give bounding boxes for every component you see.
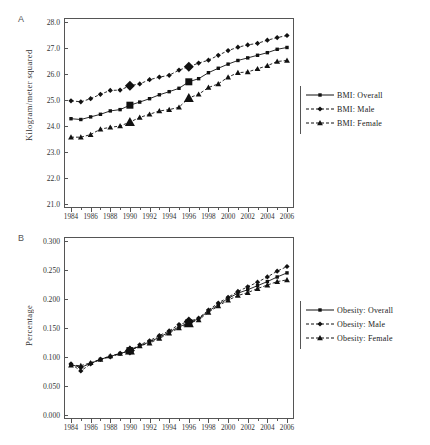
legend-sample-square-icon <box>305 89 335 101</box>
y-tick-label: 24.0 <box>28 122 60 131</box>
y-tick-mark <box>64 241 68 242</box>
x-tick-label: 2000 <box>221 424 235 432</box>
x-tick-mark <box>238 419 239 421</box>
y-tick-label: 0.100 <box>28 353 60 362</box>
x-tick-mark <box>277 419 278 421</box>
x-tick-label: 1994 <box>162 213 176 221</box>
panel-a-legend-divider <box>300 86 301 134</box>
x-tick-mark <box>199 208 200 210</box>
y-tick-mark <box>64 100 68 101</box>
y-tick-mark <box>64 270 68 271</box>
x-tick-label: 2000 <box>221 213 235 221</box>
legend-label: BMI: Male <box>337 105 375 114</box>
x-tick-mark <box>248 208 249 212</box>
y-tick-label: 28.0 <box>28 18 60 27</box>
y-tick-label: 21.0 <box>28 200 60 209</box>
y-tick-label: 26.0 <box>28 70 60 79</box>
x-tick-mark <box>150 208 151 212</box>
panel-a: A Kilogram/meter squared 28.027.026.025.… <box>0 0 430 225</box>
y-tick-label: 0.250 <box>28 266 60 275</box>
y-tick-label: 0.000 <box>28 411 60 420</box>
y-tick-mark <box>64 357 68 358</box>
legend-item: Obesity: Male <box>305 317 393 331</box>
x-tick-mark <box>150 419 151 423</box>
x-tick-label: 1996 <box>182 424 196 432</box>
y-tick-label: 25.0 <box>28 96 60 105</box>
x-tick-mark <box>238 208 239 210</box>
panel-b-series-layer <box>64 237 294 419</box>
legend-sample-diamond-icon <box>305 318 335 330</box>
x-tick-mark <box>258 208 259 210</box>
x-tick-label: 2004 <box>260 213 274 221</box>
legend-label: Obesity: Overall <box>337 306 393 315</box>
x-tick-mark <box>120 419 121 421</box>
x-tick-mark <box>258 419 259 421</box>
x-tick-label: 1994 <box>162 424 176 432</box>
legend-sample-triangle-icon <box>305 332 335 344</box>
y-tick-label: 0.150 <box>28 324 60 333</box>
x-tick-mark <box>110 208 111 212</box>
x-tick-mark <box>130 419 131 423</box>
legend-sample-square-icon <box>305 304 335 316</box>
x-tick-mark <box>81 208 82 210</box>
x-tick-mark <box>71 208 72 212</box>
x-tick-label: 1998 <box>201 213 215 221</box>
x-tick-mark <box>189 208 190 212</box>
panel-a-legend: BMI: OverallBMI: MaleBMI: Female <box>305 88 383 130</box>
x-tick-mark <box>248 419 249 423</box>
x-tick-mark <box>287 208 288 212</box>
y-tick-mark <box>64 178 68 179</box>
legend-label: Obesity: Female <box>337 334 393 343</box>
y-tick-mark <box>64 48 68 49</box>
x-tick-label: 2002 <box>241 213 255 221</box>
x-tick-mark <box>179 419 180 421</box>
x-tick-mark <box>81 419 82 421</box>
x-tick-label: 2006 <box>280 424 294 432</box>
x-tick-mark <box>199 419 200 421</box>
panel-b: B Percentage 0.3000.2500.2000.1500.1000.… <box>0 225 430 445</box>
y-tick-label: 23.0 <box>28 148 60 157</box>
x-tick-mark <box>218 208 219 210</box>
x-tick-label: 2002 <box>241 424 255 432</box>
y-tick-mark <box>64 415 68 416</box>
legend-label: BMI: Overall <box>337 91 383 100</box>
x-tick-label: 1990 <box>123 424 137 432</box>
x-tick-mark <box>159 208 160 210</box>
legend-label: Obesity: Male <box>337 320 385 329</box>
x-tick-label: 1996 <box>182 213 196 221</box>
x-tick-mark <box>91 208 92 212</box>
y-tick-mark <box>64 204 68 205</box>
x-tick-mark <box>179 208 180 210</box>
legend-item: BMI: Male <box>305 102 383 116</box>
x-tick-mark <box>159 419 160 421</box>
y-tick-mark <box>64 328 68 329</box>
x-tick-mark <box>169 419 170 423</box>
x-tick-label: 1988 <box>103 213 117 221</box>
x-tick-mark <box>100 419 101 421</box>
y-tick-label: 0.200 <box>28 295 60 304</box>
legend-item: BMI: Female <box>305 116 383 130</box>
y-tick-mark <box>64 152 68 153</box>
x-tick-mark <box>208 419 209 423</box>
panel-b-letter: B <box>18 233 25 243</box>
x-tick-mark <box>287 419 288 423</box>
x-tick-mark <box>110 419 111 423</box>
x-tick-label: 1998 <box>201 424 215 432</box>
x-tick-mark <box>130 208 131 212</box>
x-tick-mark <box>267 419 268 423</box>
legend-sample-diamond-icon <box>305 103 335 115</box>
y-tick-label: 0.050 <box>28 382 60 391</box>
x-tick-mark <box>218 419 219 421</box>
panel-a-series-layer <box>64 18 294 208</box>
legend-label: BMI: Female <box>337 119 382 128</box>
y-tick-label: 22.0 <box>28 174 60 183</box>
x-tick-label: 1992 <box>142 213 156 221</box>
legend-item: Obesity: Overall <box>305 303 393 317</box>
x-tick-mark <box>120 208 121 210</box>
x-tick-label: 1988 <box>103 424 117 432</box>
x-tick-mark <box>277 208 278 210</box>
x-tick-label: 1986 <box>83 213 97 221</box>
x-tick-label: 2004 <box>260 424 274 432</box>
panel-a-letter: A <box>18 14 25 24</box>
y-tick-mark <box>64 386 68 387</box>
